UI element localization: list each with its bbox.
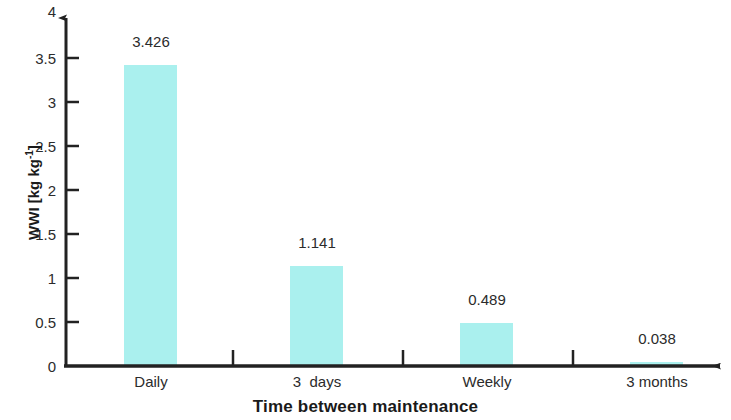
y-tick-label-3-5: 3.5 [14, 51, 56, 66]
bar-weekly [460, 323, 513, 366]
bars-group [124, 65, 683, 366]
y-tick-label-0: 0 [14, 359, 56, 374]
y-tick-label-1: 1 [14, 271, 56, 286]
y-axis-ticks [66, 58, 79, 322]
chart-canvas [0, 0, 731, 420]
y-axis-title: WWI [kg kg-1] [26, 113, 41, 273]
y-tick-label-3: 3 [14, 95, 56, 110]
bar-value-3-months: 0.038 [606, 331, 708, 346]
x-category-label-3-days: 3 days [266, 374, 368, 389]
y-tick-label-4: 4 [14, 4, 56, 19]
bar-value-3-days: 1.141 [266, 235, 368, 250]
y-axis [66, 18, 79, 366]
bar-chart: 4 3.5 3 2.5 2 1.5 1 0.5 0 3.426 1.141 0.… [0, 0, 731, 420]
y-axis-title-tail: ] [25, 145, 42, 150]
bar-3-days [290, 266, 343, 366]
bar-value-daily: 3.426 [100, 34, 202, 49]
bar-daily [124, 65, 177, 366]
y-axis-title-base: WWI [kg kg [25, 159, 42, 240]
y-tick-label-0-5: 0.5 [14, 315, 56, 330]
x-axis-title: Time between maintenance [0, 398, 731, 415]
bar-value-weekly: 0.489 [436, 292, 538, 307]
x-axis-ticks [233, 350, 573, 366]
x-category-label-3-months: 3 months [606, 374, 708, 389]
y-axis-title-superscript: -1 [24, 150, 35, 159]
x-category-label-weekly: Weekly [436, 374, 538, 389]
x-category-label-daily: Daily [100, 374, 202, 389]
